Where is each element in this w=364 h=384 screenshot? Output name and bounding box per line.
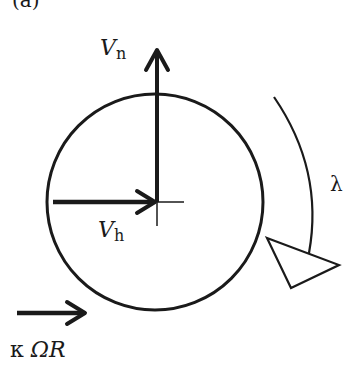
rotation-arc-icon — [267, 97, 339, 288]
vn-arrow-icon — [146, 50, 168, 202]
center-crosshair — [157, 202, 184, 226]
vh-arrow-icon — [53, 191, 155, 213]
vn-label: Vn — [100, 35, 126, 63]
freestream-arrow-icon — [17, 302, 85, 324]
rotor-diagram: (a) Vn Vh λ κ ΩR — [0, 0, 364, 384]
kappa-omega-r-label: κ ΩR — [10, 337, 66, 362]
vh-label: Vh — [98, 217, 124, 245]
lambda-label: λ — [330, 172, 343, 196]
panel-label: (a) — [12, 0, 40, 12]
